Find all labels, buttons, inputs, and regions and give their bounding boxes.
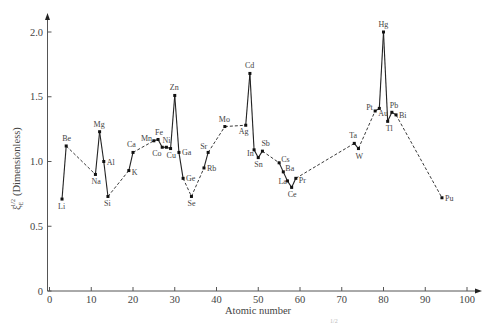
point-label-cu: Cu [167,151,176,160]
point-label-se: Se [187,199,195,208]
point-label-pr: Pr [299,176,306,185]
data-point-sb [261,150,264,153]
x-tick-label: 60 [295,294,306,305]
point-label-la: La [278,177,287,186]
y-axis-text: (Dimensionless) [11,127,23,196]
solid-segment [95,132,99,175]
data-point-zn [173,94,176,97]
point-label-cs: Cs [281,155,289,164]
data-point-tl [386,120,389,123]
data-point-ga [177,151,180,154]
data-point-mo [223,125,226,128]
data-point-ce [290,186,293,189]
data-point-be [65,144,68,147]
x-tick-label: 20 [128,294,139,305]
data-point-na [94,173,97,176]
point-label-ba: Ba [285,164,294,173]
point-label-al: Al [107,158,116,167]
x-axis-title: Atomic number [225,305,292,316]
x-tick-label: 90 [420,294,431,305]
data-point-li [61,198,64,201]
x-tick-label: 50 [253,294,264,305]
y-axis-arrow-icon [45,13,50,20]
point-label-bi: Bi [399,111,407,120]
dashed-segment [296,143,354,178]
dashed-segment [66,146,95,174]
solid-segment [100,132,104,162]
dashed-segment [358,111,375,149]
x-tick-label: 30 [170,294,181,305]
data-point-pr [294,177,297,180]
x-tick-label: 10 [86,294,97,305]
data-point-bi [395,113,398,116]
data-point-fe [157,138,160,141]
dashed-segment [108,171,129,197]
point-label-pu: Pu [445,194,453,203]
data-point-ge [182,177,185,180]
data-point-al [102,160,105,163]
point-label-mn: Mn [141,134,152,143]
solid-segment [246,73,250,125]
caption-fragment: 1/2 [330,318,338,324]
point-label-ta: Ta [349,131,357,140]
point-label-tl: Tl [386,124,394,133]
point-label-si: Si [104,199,111,208]
point-label-ca: Ca [127,140,136,149]
point-label-rb: Rb [207,164,216,173]
point-label-w: W [355,152,363,161]
point-label-mo: Mo [219,115,230,124]
point-label-sn: Sn [254,160,262,169]
data-point-hg [382,31,385,34]
point-label-k: K [132,168,138,177]
x-tick-label: 70 [337,294,348,305]
x-tick-label: 0 [47,294,52,305]
point-label-ga: Ga [182,148,192,157]
point-label-pt: Pt [366,103,373,112]
data-point-ni [165,146,168,149]
data-point-si [106,195,109,198]
data-point-mn [152,139,155,142]
data-point-ca [132,151,135,154]
data-point-rb [202,166,205,169]
data-points: LiBeNaMgAlSiKCaMnFeCoNiCuZnGaGeSeRbSrMoA… [58,20,453,211]
point-label-ce: Ce [288,190,297,199]
point-label-zn: Zn [170,83,179,92]
dashed-segment [396,115,442,198]
data-point-pb [390,111,393,114]
y-tick-label: 1.0 [30,156,43,167]
solid-segment [175,95,179,152]
solid-segment [62,146,66,199]
data-point-ta [353,142,356,145]
y-tick-label: 0.5 [30,221,43,232]
x-axis-arrow-icon [475,289,482,294]
y-tick-label: 1.5 [30,91,43,102]
solid-segment [104,162,108,197]
x-tick-label: 80 [378,294,389,305]
data-point-cd [248,72,251,75]
point-label-cd: Cd [245,61,254,70]
point-label-be: Be [62,134,71,143]
solid-segment [171,95,175,148]
point-label-ni: Ni [162,136,171,145]
solid-segment [384,32,388,121]
point-label-sr: Sr [200,142,207,151]
point-label-li: Li [58,202,66,211]
data-point-pt [374,109,377,112]
point-label-ge: Ge [186,174,196,183]
point-label-ag: Ag [239,127,249,136]
data-point-se [190,195,193,198]
solid-segment [379,32,383,108]
svg-text:ξE1/2(Dimensionless): ξE1/2(Dimensionless) [10,127,24,210]
point-label-co: Co [152,149,161,158]
dashed-segment [262,151,279,163]
data-point-w [357,147,360,150]
data-point-pu [440,196,443,199]
x-tick-label: 100 [459,294,475,305]
point-label-hg: Hg [379,20,389,29]
y-tick-label: 2.0 [30,27,43,38]
x-tick-label: 40 [211,294,222,305]
solid-segment [250,73,254,149]
data-point-k [127,169,130,172]
point-label-na: Na [91,177,101,186]
point-label-in: In [247,149,254,158]
